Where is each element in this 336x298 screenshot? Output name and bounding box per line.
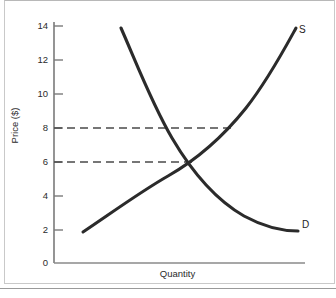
y-tick-label-4: 4 [28,191,48,201]
supply-demand-figure: 14 12 10 8 6 4 2 0 Price ($) Quantity S … [0,0,336,298]
y-tick-label-6: 6 [28,157,48,167]
x-axis-title: Quantity [55,268,300,279]
y-tick-label-10: 10 [28,89,48,99]
y-axis-title: Price ($) [9,96,20,156]
y-tick-label-2: 2 [28,225,48,235]
plot-area [0,0,336,298]
y-tick-label-14: 14 [28,21,48,31]
supply-curve [83,28,296,232]
demand-curve-label: D [302,220,309,230]
demand-curve [121,28,298,231]
y-tick-label-0: 0 [28,258,48,268]
y-tick-label-8: 8 [28,123,48,133]
supply-curve-label: S [299,25,306,35]
y-tick-label-12: 12 [28,55,48,65]
